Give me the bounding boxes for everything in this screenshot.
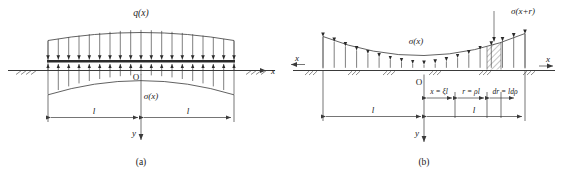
hatched-strip-b — [487, 42, 501, 70]
label-origin-o-b: O — [416, 77, 423, 87]
ground-hatch-left-a — [16, 71, 36, 75]
label-point-stress-sigma-x-plus-r: σ(x+r) — [511, 6, 535, 16]
label-span-right-b: l — [473, 105, 476, 115]
label-axis-y-b: y — [414, 128, 419, 138]
label-span-left-b: l — [372, 105, 375, 115]
label-dim-x: x = ξl — [429, 87, 448, 96]
label-axis-x-left-b: x — [294, 53, 299, 63]
label-origin-o-a: O — [133, 72, 140, 82]
ground-hatch-right-a — [246, 71, 266, 75]
ground-hatch-marks-b — [305, 71, 535, 75]
label-reaction-sigma-x-b: σ(x) — [409, 36, 423, 46]
label-span-left-a: l — [93, 106, 96, 116]
label-span-right-a: l — [187, 106, 190, 116]
caption-panel-b: (b) — [418, 157, 429, 168]
label-axis-x-a: x — [270, 66, 275, 76]
caption-panel-a: (a) — [136, 157, 147, 168]
panel-a-diagram: q(x) σ(x) O x y l l (a) — [0, 0, 283, 171]
label-axis-x-right-b: x — [545, 54, 550, 64]
figure-root: q(x) σ(x) O x y l l (a) — [0, 0, 566, 171]
label-axis-y-a: y — [131, 128, 136, 138]
label-load-qx: q(x) — [133, 8, 148, 19]
label-reaction-sigma-x-a: σ(x) — [144, 91, 158, 101]
label-dim-dr: dr = ldρ — [492, 87, 518, 96]
load-arrows-a — [48, 30, 234, 60]
panel-b-diagram: σ(x) σ(x+r) O x x y l l x = ξl r = ρl dr… — [283, 0, 566, 171]
dimension-line-a — [48, 75, 234, 123]
label-dim-r: r = ρl — [462, 87, 480, 96]
